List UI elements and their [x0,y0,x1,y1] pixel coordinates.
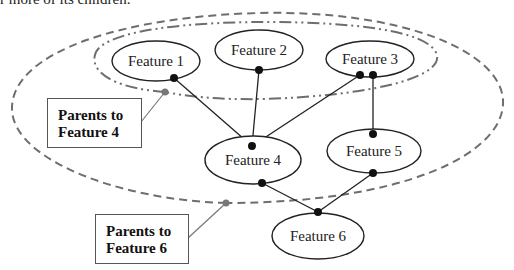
port-dot [255,66,263,74]
port-dot [356,71,364,79]
group-anchor-dot-f4 [162,89,169,96]
node-feature-1: Feature 1 [112,41,200,81]
node-label: Feature 6 [290,228,347,244]
callout-parents-to-feature-4: Parents to Feature 4 [47,98,142,148]
edge-f5-f6 [318,173,373,212]
port-dot [314,208,322,216]
port-dot [369,71,377,79]
node-label: Feature 3 [342,51,398,67]
node-feature-2: Feature 2 [215,30,303,70]
callout-line-2: Feature 4 [58,124,141,141]
callout-line-1: Parents to [106,223,188,240]
callout-connector-f4 [141,92,165,122]
node-label: Feature 4 [225,152,282,168]
node-label: Feature 2 [231,42,287,58]
group-anchor-dot-f6 [223,200,230,207]
callout-line-2: Feature 6 [106,240,188,257]
node-feature-3: Feature 3 [326,41,414,77]
edge-f2-f4 [252,70,259,146]
port-dot [248,142,256,150]
edge-f1-f4 [174,78,252,146]
node-feature-6: Feature 6 [272,213,364,259]
port-dot [369,130,377,138]
port-dot [258,179,266,187]
node-label: Feature 1 [128,53,184,69]
callout-connector-f6 [188,203,226,238]
callout-parents-to-feature-6: Parents to Feature 6 [95,214,189,264]
port-dot [369,169,377,177]
port-dot [170,74,178,82]
callout-line-1: Parents to [58,107,141,124]
node-label: Feature 5 [346,143,402,159]
edge-f4-f6 [262,183,318,212]
